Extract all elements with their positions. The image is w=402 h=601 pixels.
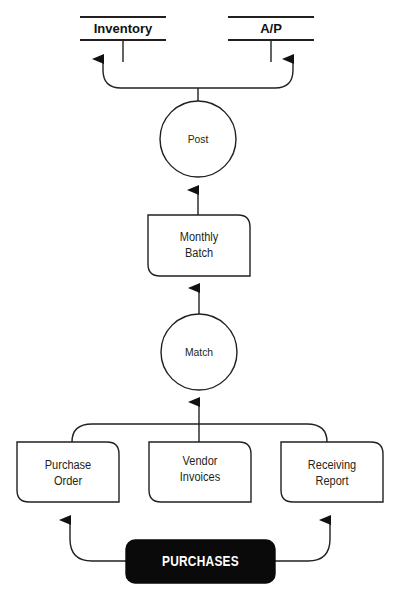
flow-docs-to-match	[72, 402, 327, 442]
document-receiving-report-label: Receiving Report	[287, 455, 377, 493]
dfd-canvas	[0, 0, 402, 601]
data-store-ap-label: A/P	[228, 19, 314, 39]
external-entity-purchases-label: PURCHASES	[137, 540, 264, 583]
document-monthly-batch-label: Monthly Batch	[154, 227, 244, 265]
document-vendor-invoices-label: Vendor Invoices	[155, 451, 245, 489]
process-match-label: Match	[165, 342, 233, 362]
flow-post-to-stores	[103, 59, 293, 101]
data-store-inventory-label: Inventory	[80, 19, 166, 39]
process-post-label: Post	[164, 129, 232, 149]
document-purchase-order-label: Purchase Order	[23, 455, 113, 493]
